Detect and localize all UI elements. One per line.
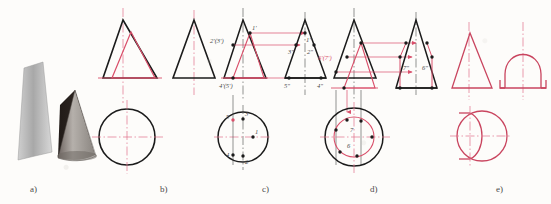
panel-d-top-view: 7 6 (320, 102, 390, 174)
label-6-top: 6 (347, 142, 351, 149)
panel-d-side-view: 7" 6" (396, 12, 437, 95)
point-4-5-prime (231, 76, 234, 79)
point-7-dprime-top (404, 41, 407, 44)
point-7-dprime (398, 55, 401, 58)
label-7-dprime: 7" (403, 64, 409, 71)
point-7-base-d (398, 86, 401, 89)
panel-label-d: d) (370, 184, 378, 194)
label-4-dprime: 4" (317, 82, 323, 89)
point-2-dprime (312, 43, 315, 46)
label-2-3-prime: 2'(3') (210, 37, 224, 45)
cone-front-outline-c (224, 20, 266, 78)
point-5-top (231, 118, 234, 121)
point-6-top (338, 150, 341, 153)
panel-b-top-view (92, 100, 164, 174)
panel-b (92, 8, 215, 174)
drawing-canvas: a) b) (0, 0, 551, 204)
label-2-dprime: 2" (307, 48, 313, 55)
point-base-d (334, 70, 337, 73)
panel-label-c: c) (262, 184, 269, 194)
cone-base-ellipse (57, 151, 97, 161)
cut-triangle-d (344, 43, 375, 88)
panel-d-front-view: 6'(7') (318, 8, 416, 165)
label-6-7-prime: 6'(7') (318, 54, 332, 62)
panel-label-e: e) (496, 184, 503, 194)
label-1-prime: 1' (252, 24, 257, 31)
panel-label-b: b) (160, 184, 168, 194)
point-left-top-d (334, 128, 337, 131)
panel-b-front-view (98, 8, 162, 103)
point-3-dprime (294, 43, 297, 46)
label-3-top: 3 (244, 110, 249, 117)
point-1-top (251, 135, 254, 138)
label-5-dprime: 5" (284, 82, 290, 89)
panel-e-top-view (450, 106, 512, 168)
point-4-dprime (319, 76, 322, 79)
technical-drawing-figure: a) b) (0, 0, 551, 204)
point-6-dprime (430, 55, 433, 58)
point-6-base-d (430, 86, 433, 89)
panel-e-front-view (452, 22, 492, 100)
label-1-dprime: 1" (306, 36, 312, 43)
point-6-7-prime (345, 55, 348, 58)
point-right-top-d (370, 135, 373, 138)
panel-e (450, 22, 546, 168)
point-1-dprime (303, 31, 306, 34)
label-4-top: 4 (226, 151, 230, 158)
panel-a-photograph (18, 62, 97, 161)
point-1-prime (248, 31, 251, 34)
panel-label-a: a) (30, 184, 37, 194)
panel-d: 6'(7') 7" 6" (318, 8, 437, 174)
point-7-top (345, 118, 348, 121)
point-4-top (231, 153, 234, 156)
panel-e-side-view (500, 22, 546, 100)
label-7-top: 7 (350, 126, 354, 133)
point-3-top (241, 117, 244, 120)
point-6b-top (355, 154, 358, 157)
label-6-dprime: 6" (422, 64, 428, 71)
point-apex-d (359, 41, 362, 44)
cut-triangle-c (233, 33, 264, 78)
cone-front-outline-b (103, 20, 157, 78)
panel-b-side-view (173, 10, 215, 95)
label-1-top: 1 (255, 128, 258, 135)
point-6-dprime-top (425, 41, 428, 44)
point-7b-top (359, 119, 362, 122)
point-2-3-prime (231, 43, 234, 46)
label-3-dprime: 3" (287, 48, 294, 55)
point-base2-d (342, 86, 345, 89)
result-front-triangle-e (452, 33, 492, 88)
label-4-5-prime: 4'(5') (219, 82, 233, 90)
point-5-dprime (287, 76, 290, 79)
panel-c: 1' 2'(3') 4'(5') 1" 3" 2" 5" 4" (210, 8, 326, 170)
cone-wedge-piece (18, 62, 52, 160)
panel-c-top-view: 5 3 1 4 2 (214, 95, 272, 170)
